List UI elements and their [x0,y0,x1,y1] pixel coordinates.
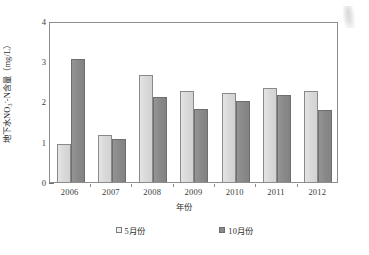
x-tick-label-2007: 2007 [102,187,120,197]
bar-group-2008 [133,23,174,182]
legend-item-oct[interactable]: 10月份 [219,224,253,236]
x-tick-label-2009: 2009 [185,187,203,197]
y-axis-title-text: 地下水NO3--N含量（mg/L） [0,41,12,144]
plot-area [49,22,338,183]
bar-2012-may[interactable] [304,91,318,182]
bar-2009-may[interactable] [180,91,194,182]
x-tick-cell-2008: 2008 [132,184,173,200]
x-tick-cell-2007: 2007 [90,184,131,200]
bar-2006-may[interactable] [57,144,71,182]
x-tick-label-2010: 2010 [226,187,244,197]
bar-2012-oct[interactable] [318,110,332,182]
bar-2009-oct[interactable] [194,109,208,182]
x-tick-label-2008: 2008 [143,187,161,197]
legend-label-oct: 10月份 [228,224,253,236]
x-tick-cell-2010: 2010 [214,184,255,200]
bar-group-2012 [298,23,339,182]
bar-2010-oct[interactable] [236,101,250,182]
x-tick-cell-2009: 2009 [173,184,214,200]
x-tick-label-2012: 2012 [308,187,326,197]
bar-2011-oct[interactable] [277,95,291,182]
bar-2010-may[interactable] [222,93,236,182]
bar-2007-may[interactable] [98,135,112,182]
y-tick-label-0: 0 [30,178,46,188]
x-tick-label-2011: 2011 [267,187,285,197]
bar-group-2006 [50,23,91,182]
bar-2008-may[interactable] [139,75,153,182]
bar-2007-oct[interactable] [112,139,126,182]
legend-swatch-icon-may [116,227,122,233]
bar-2008-oct[interactable] [153,97,167,182]
legend-swatch-icon-oct [219,227,225,233]
x-tick-label-2006: 2006 [61,187,79,197]
bar-group-2011 [256,23,297,182]
x-axis-title: 年份 [0,200,369,212]
bar-group-2009 [174,23,215,182]
bar-2011-may[interactable] [263,88,277,182]
y-axis-title-subscript: 3 [7,103,13,106]
bars-layer [50,23,337,182]
bar-group-2007 [91,23,132,182]
y-axis-title-suffix: -N含量（mg/L） [3,41,12,101]
y-axis-title-prefix: 地下水NO [3,106,12,143]
y-tick-label-1: 1 [30,138,46,148]
bar-2006-oct[interactable] [71,59,85,182]
y-axis-title: 地下水NO3--N含量（mg/L） [0,12,18,172]
x-tick-cell-2012: 2012 [297,184,338,200]
scan-artifact [343,6,355,28]
legend-label-may: 5月份 [125,224,146,236]
legend-item-may[interactable]: 5月份 [116,224,146,236]
y-tick-label-2: 2 [30,97,46,107]
x-tick-cell-2011: 2011 [255,184,296,200]
x-tick-cell-2006: 2006 [49,184,90,200]
bar-group-2010 [215,23,256,182]
x-axis-tick-labels: 2006200720082009201020112012 [49,184,338,200]
y-tick-label-3: 3 [30,57,46,67]
y-axis-title-superscript: - [2,101,8,103]
y-tick-label-4: 4 [30,17,46,27]
chart-legend: 5月份10月份 [0,224,369,236]
figure-canvas: 地下水NO3--N含量（mg/L） 4 3 2 1 0 200620072008… [0,0,369,255]
